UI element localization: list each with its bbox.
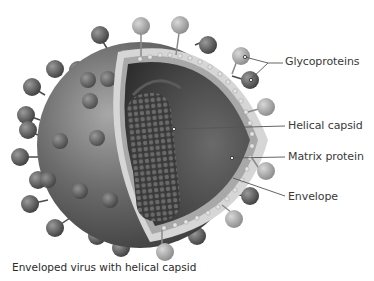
virus-diagram: Glycoproteins Helical capsid Matrix prot… xyxy=(0,0,374,281)
leader-glycoproteins-a xyxy=(245,57,283,63)
label-glycoproteins: Glycoproteins xyxy=(285,55,359,68)
label-helical-capsid: Helical capsid xyxy=(288,119,363,132)
label-envelope: Envelope xyxy=(288,190,338,203)
figure-caption: Enveloped virus with helical capsid xyxy=(12,261,196,273)
label-matrix-protein: Matrix protein xyxy=(288,150,364,163)
virus-illustration xyxy=(0,0,374,281)
